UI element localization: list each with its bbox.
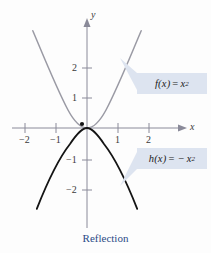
y-tick-label-1: 1 bbox=[72, 92, 77, 103]
origin-vertex-dot bbox=[80, 122, 84, 126]
callout-label-h: h(x)=−x2 bbox=[137, 148, 207, 169]
y-axis bbox=[84, 18, 91, 228]
callout-h-base: x bbox=[187, 153, 192, 164]
x-axis-name-label: x bbox=[190, 121, 194, 132]
x-tick-label-neg2: −2 bbox=[19, 134, 30, 145]
x-tick-label-neg1: −1 bbox=[50, 134, 61, 145]
x-tick-label-2: 2 bbox=[146, 134, 151, 145]
y-axis-name-label: y bbox=[91, 9, 95, 20]
callout-h-arg: (x) bbox=[154, 153, 166, 164]
callout-f-arg: (x) bbox=[158, 78, 170, 89]
x-axis bbox=[12, 125, 187, 132]
callout-h-tail bbox=[120, 152, 137, 186]
callout-label-f: f(x)=x2 bbox=[137, 73, 207, 94]
y-tick-label-neg2: −2 bbox=[66, 184, 77, 195]
callout-h-equals: = bbox=[166, 153, 176, 164]
y-tick-label-2: 2 bbox=[72, 62, 77, 73]
callout-f-equals: = bbox=[170, 78, 180, 89]
callout-h-minus-sign: − bbox=[177, 153, 187, 164]
y-tick-label-neg1: −1 bbox=[66, 154, 77, 165]
figure-caption: Reflection bbox=[0, 232, 211, 244]
x-tick-label-1: 1 bbox=[115, 134, 120, 145]
parabola-plot bbox=[0, 0, 211, 253]
reflection-figure: −2 −1 1 2 2 1 −1 −2 y x f(x)=x2 h(x)=−x2… bbox=[0, 0, 211, 253]
